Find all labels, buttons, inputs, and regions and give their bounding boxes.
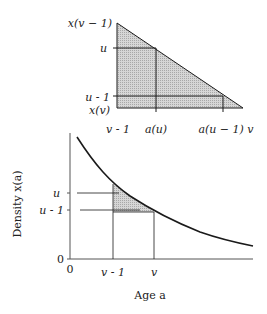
top-panel: x(v − 1) u u - 1 x(v) v - 1 a(u) a(u − 1… (68, 17, 255, 136)
x-axis-title: Age a (133, 289, 166, 302)
y-axis-title: Density x(a) (11, 170, 24, 237)
diagram-canvas: x(v − 1) u u - 1 x(v) v - 1 a(u) a(u − 1… (0, 0, 267, 314)
triangle-region (117, 23, 243, 108)
x-label-v: v (151, 266, 158, 279)
x-label-v-minus-1: v - 1 (101, 266, 125, 279)
top-label-v-minus-1: v - 1 (106, 123, 130, 136)
y-label-zero: 0 (57, 253, 64, 266)
top-label-u: u (100, 42, 107, 55)
top-label-x-v: x(v) (89, 104, 110, 117)
top-label-u-minus-1: u - 1 (85, 91, 110, 104)
y-label-u: u (53, 187, 60, 200)
x-label-zero: 0 (67, 263, 74, 276)
y-label-u-minus-1: u - 1 (39, 204, 64, 217)
top-label-x-v-minus-1: x(v − 1) (68, 17, 112, 30)
top-label-a-u-minus-1-v: a(u − 1) v (198, 123, 254, 136)
bottom-panel: u u - 1 0 0 v - 1 v Density x(a) Age a (11, 133, 253, 302)
top-label-a-u: a(u) (145, 123, 167, 136)
density-curve (77, 137, 253, 246)
